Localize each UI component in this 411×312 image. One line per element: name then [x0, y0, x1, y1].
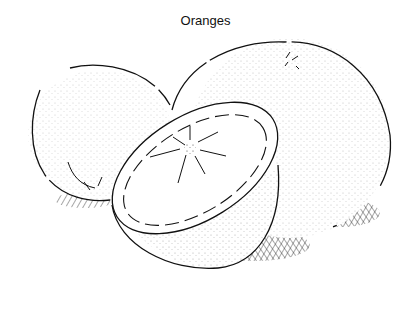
- oranges-illustration: [0, 0, 411, 312]
